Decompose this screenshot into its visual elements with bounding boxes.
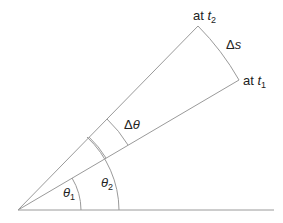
label-theta1-sub: 1 xyxy=(70,192,75,202)
label-delta-theta-var: θ xyxy=(133,117,140,132)
arc-delta-s xyxy=(198,26,239,80)
label-delta-s-var: s xyxy=(235,37,242,52)
delta-symbol: Δ xyxy=(226,37,235,52)
label-theta2-sub: 2 xyxy=(108,182,113,192)
label-at-t2: at t2 xyxy=(193,9,216,25)
delta-symbol: Δ xyxy=(124,117,133,132)
label-theta1-var: θ xyxy=(63,185,70,200)
diagram-lines xyxy=(0,0,283,223)
diagram-canvas: at t2 at t1 Δs Δθ θ1 θ2 xyxy=(0,0,283,223)
label-at-t1-sub: 1 xyxy=(261,80,266,90)
label-at-t2-sub: 2 xyxy=(211,15,216,25)
label-theta2-var: θ xyxy=(101,175,108,190)
label-delta-theta: Δθ xyxy=(124,118,140,131)
label-delta-s: Δs xyxy=(226,38,241,51)
label-theta1: θ1 xyxy=(63,186,75,202)
label-at-t1-prefix: at xyxy=(243,73,257,88)
label-at-t1: at t1 xyxy=(243,74,266,90)
label-theta2: θ2 xyxy=(101,176,113,192)
arc-delta-theta-inner xyxy=(89,137,106,158)
arc-theta2 xyxy=(87,137,119,210)
label-at-t2-prefix: at xyxy=(193,8,207,23)
radius-t1 xyxy=(18,80,239,210)
